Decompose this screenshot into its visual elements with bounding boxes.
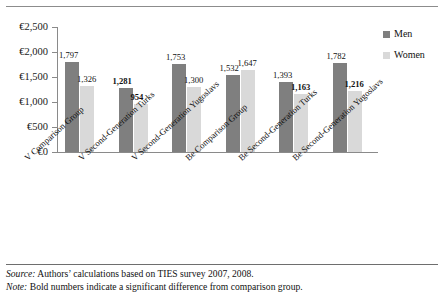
bar-value-label-men: 1,782 bbox=[327, 52, 346, 61]
legend-item-women: Women bbox=[383, 50, 444, 60]
bar-group: 1,3931,163 bbox=[279, 27, 309, 152]
note-prefix: Note: bbox=[6, 281, 27, 292]
bar-value-label-men: 1,532 bbox=[220, 64, 239, 73]
bar-value-label-women: 1,326 bbox=[77, 75, 96, 84]
legend-item-men: Men bbox=[383, 29, 444, 39]
source-prefix: Source: bbox=[6, 268, 35, 279]
y-axis-tick-label: €1,000 bbox=[0, 97, 48, 108]
bar-group: 1,7821,216 bbox=[333, 27, 363, 152]
y-axis-tick-mark bbox=[52, 27, 58, 28]
top-divider bbox=[6, 6, 438, 7]
bar-group: 1,7971,326 bbox=[65, 27, 95, 152]
bar-chart: €2,500€2,000€1,500€1,000€500€0 1,7971,32… bbox=[0, 14, 444, 264]
y-axis-tick-mark bbox=[52, 52, 58, 53]
bar-group: 1,7531,300 bbox=[172, 27, 202, 152]
bar-value-label-men: 1,753 bbox=[166, 53, 185, 62]
source-line: Source: Authors’ calculations based on T… bbox=[6, 268, 438, 281]
note-text: Bold numbers indicate a significant diff… bbox=[27, 281, 302, 292]
figure-footnotes: Source: Authors’ calculations based on T… bbox=[6, 268, 438, 293]
bottom-divider bbox=[6, 264, 438, 265]
legend-label-women: Women bbox=[394, 50, 425, 60]
y-axis-tick-label: €2,500 bbox=[0, 22, 48, 33]
bar-group: 1,281954 bbox=[119, 27, 149, 152]
y-axis-tick-mark bbox=[52, 77, 58, 78]
figure-page: €2,500€2,000€1,500€1,000€500€0 1,7971,32… bbox=[0, 0, 444, 302]
bar-value-label-women: 1,216 bbox=[345, 80, 364, 89]
bar-value-label-men: 1,281 bbox=[113, 77, 132, 86]
bar-value-label-men: 1,797 bbox=[59, 51, 78, 60]
legend-label-men: Men bbox=[394, 29, 412, 39]
legend-swatch-men-icon bbox=[383, 31, 390, 38]
y-axis-tick-label: €1,500 bbox=[0, 72, 48, 83]
y-axis-tick-label: €500 bbox=[0, 122, 48, 133]
bar-value-label-women: 1,300 bbox=[184, 76, 203, 85]
legend-swatch-women-icon bbox=[383, 52, 390, 59]
bar-group: 1,5321,647 bbox=[226, 27, 256, 152]
y-axis-tick-label: €2,000 bbox=[0, 47, 48, 58]
source-text: Authors’ calculations based on TIES surv… bbox=[35, 268, 253, 279]
chart-legend: Men Women bbox=[383, 29, 444, 71]
y-axis-tick-mark bbox=[52, 102, 58, 103]
bar-value-label-men: 1,393 bbox=[273, 71, 292, 80]
note-line: Note: Bold numbers indicate a significan… bbox=[6, 281, 438, 294]
bar-value-label-women: 1,647 bbox=[238, 59, 257, 68]
x-axis-category-labels: V Comparison GroupV Second-Generation Tu… bbox=[0, 152, 444, 264]
